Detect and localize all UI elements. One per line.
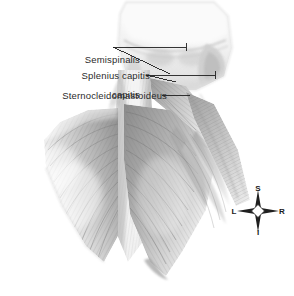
- compass-label-inferior: I: [253, 229, 263, 237]
- label-splenius-capitis: Splenius capitis: [0, 70, 150, 82]
- compass-label-right: R: [277, 208, 287, 216]
- compass-label-left: L: [229, 208, 239, 216]
- label-sternocleidomastoideus: Sternocleidomastoideus: [0, 90, 167, 102]
- label-semispinalis-capitis-line1: Semispinalis: [0, 54, 140, 66]
- compass-label-superior: S: [253, 185, 263, 193]
